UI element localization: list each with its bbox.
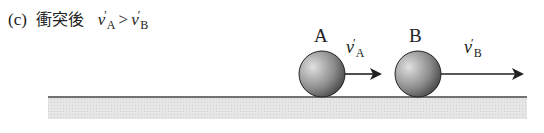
velocity-arrow-a <box>345 68 382 80</box>
ball-b <box>395 51 441 97</box>
ball-a-label: A <box>314 25 328 47</box>
sub: B <box>474 46 482 60</box>
sub: A <box>356 46 365 60</box>
velocity-label-b: v′B <box>464 36 482 61</box>
ground-fill <box>48 97 527 119</box>
ball-a <box>299 51 345 97</box>
collision-diagram <box>0 0 544 133</box>
velocity-arrow-b <box>441 68 524 80</box>
velocity-label-a: v′A <box>346 36 364 61</box>
ball-b-label: B <box>409 25 422 47</box>
